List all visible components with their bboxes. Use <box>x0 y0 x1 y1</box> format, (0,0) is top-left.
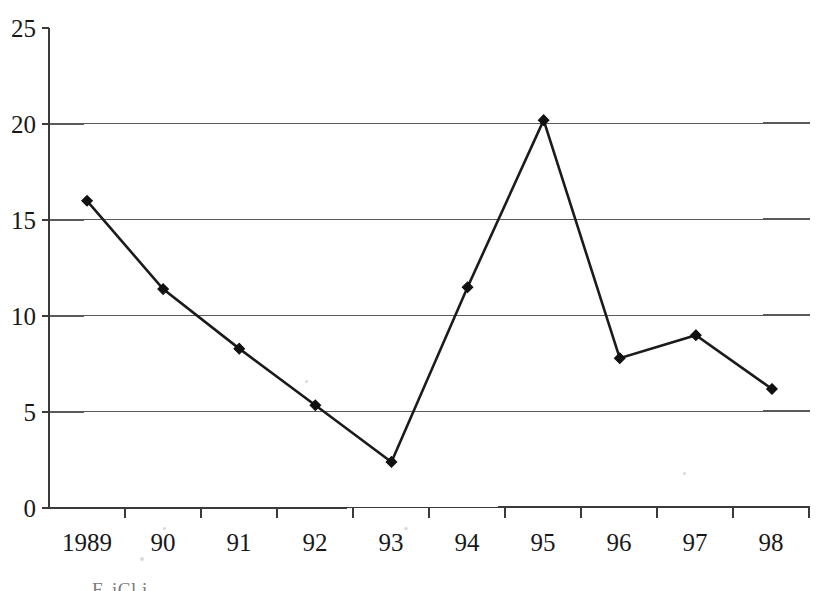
gridline-15 <box>49 219 810 220</box>
x-tick-label-91: 91 <box>227 529 252 556</box>
y-tick-label-15: 15 <box>11 207 36 234</box>
x-tick-label-98: 98 <box>759 529 784 556</box>
gridlines <box>49 123 810 412</box>
x-tick-marks <box>125 508 809 518</box>
y-tick-label-10: 10 <box>11 303 36 330</box>
x-tick-label-90: 90 <box>151 529 176 556</box>
x-tick-label-93: 93 <box>379 529 404 556</box>
y-tick-label-0: 0 <box>24 495 37 522</box>
y-tick-label-5: 5 <box>24 399 37 426</box>
gridline-10 <box>49 315 810 316</box>
scan-speck <box>305 380 308 383</box>
x-tick-label-92: 92 <box>303 529 328 556</box>
y-tick-marks <box>42 28 49 508</box>
y-axis-labels: 25 20 15 10 5 0 <box>11 15 36 522</box>
scan-speck <box>683 472 686 475</box>
x-tick-label-97: 97 <box>683 529 708 556</box>
scan-speck <box>140 557 144 561</box>
x-tick-label-94: 94 <box>455 529 481 556</box>
x-tick-label-96: 96 <box>607 529 632 556</box>
y-tick-label-25: 25 <box>11 15 36 42</box>
scan-speck <box>404 527 408 530</box>
axes <box>49 28 810 508</box>
series-marker <box>462 282 472 292</box>
y-tick-label-20: 20 <box>11 111 36 138</box>
series-marker <box>615 353 625 363</box>
series-markers <box>82 115 777 467</box>
x-tick-label-1989: 1989 <box>62 529 112 556</box>
gridline-20 <box>49 123 810 124</box>
cropped-caption: F. iCl i <box>92 579 148 591</box>
x-tick-label-95: 95 <box>531 529 556 556</box>
gridline-5 <box>49 411 810 412</box>
x-axis-labels: 1989 90 91 92 93 94 95 96 97 98 <box>62 529 784 556</box>
x-axis <box>49 507 810 508</box>
scan-speck <box>163 527 166 530</box>
